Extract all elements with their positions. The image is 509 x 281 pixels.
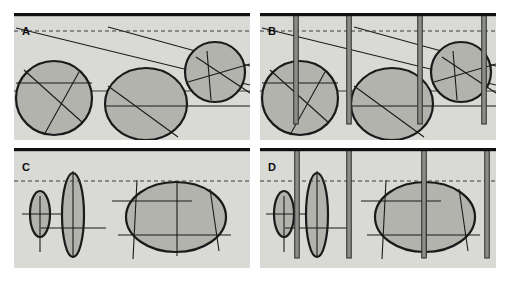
panel-d-drawing	[260, 148, 496, 268]
top-surface-bar	[14, 148, 250, 151]
burrow-b3	[418, 14, 423, 124]
panel-b	[260, 13, 496, 140]
burrow-d3	[422, 149, 427, 258]
burrow-d4	[485, 149, 490, 258]
burrow-d2	[347, 149, 352, 258]
panel-c-drawing	[14, 148, 250, 268]
panel-a	[14, 13, 250, 140]
panel-d	[260, 148, 496, 268]
nodule-a3	[185, 42, 245, 102]
burrow-b2	[347, 14, 352, 124]
nodule-a1	[16, 61, 92, 135]
top-surface-bar	[260, 13, 496, 16]
panel-c	[14, 148, 250, 268]
burrow-b4	[482, 14, 487, 124]
burrow-d1	[295, 149, 300, 258]
nodule-b1	[262, 61, 338, 135]
nodule-a2	[105, 68, 187, 140]
top-surface-bar	[260, 148, 496, 151]
burrow-b1	[294, 14, 299, 124]
figure-container: ABCD	[0, 0, 509, 281]
panel-b-drawing	[260, 13, 496, 140]
top-surface-bar	[14, 13, 250, 16]
panel-a-drawing	[14, 13, 250, 140]
